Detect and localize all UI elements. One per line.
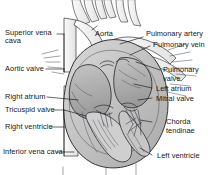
label-pulmonary-valve-line2: valve: [163, 75, 181, 83]
label-inferior-vena-cava: Inferior vena cava: [3, 148, 63, 156]
label-pulmonary-vein: Pulmonary vein: [153, 41, 205, 49]
label-left-ventricle: Left ventricle: [157, 152, 200, 160]
heart-anatomy-diagram: Superior vena cava Aortic valve Right at…: [0, 0, 224, 175]
label-aorta: Aorta: [95, 30, 113, 38]
label-chorda-tendinae-line2: tendinae: [166, 127, 195, 135]
label-mitral-valve: Mitral valve: [156, 95, 194, 103]
label-tricuspid-valve: Tricuspid valve: [5, 106, 55, 114]
label-superior-vena-cava-line2: cava: [5, 37, 21, 45]
label-right-atrium: Right atrium: [5, 93, 45, 101]
label-left-atrium: Left atrium: [156, 85, 191, 93]
label-pulmonary-artery: Pulmonary artery: [146, 30, 203, 38]
label-right-ventricle: Right ventricle: [5, 123, 53, 131]
label-aortic-valve: Aortic valve: [5, 65, 44, 73]
